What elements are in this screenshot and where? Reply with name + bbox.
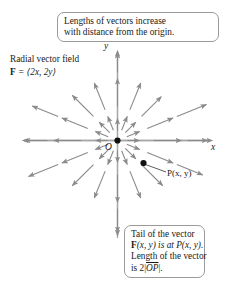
field-vector-arrow	[142, 165, 163, 186]
radial-field-label-line1: Radial vector field	[10, 53, 79, 66]
field-vector-arrow	[32, 106, 58, 116]
field-vector-arrow	[125, 148, 136, 159]
origin-dot	[114, 137, 120, 143]
field-vector-arrow	[130, 83, 141, 110]
field-vector-arrow	[147, 152, 173, 162]
field-vector-arrow	[108, 116, 114, 130]
radial-field-label: Radial vector field F = ⟨2x, 2y⟩	[10, 53, 79, 78]
length-suffix: .	[160, 263, 162, 273]
origin-label: O	[105, 142, 112, 152]
y-axis-label: y	[104, 41, 108, 51]
field-vector-arrow	[142, 97, 162, 117]
callout-bottom-line2: F(x, y) is at P(x, y).	[131, 240, 199, 251]
field-vector-arrow	[147, 118, 173, 128]
field-vector-arrow	[62, 118, 88, 128]
field-vector-arrow	[127, 144, 140, 149]
field-vector-arrow	[94, 171, 105, 198]
callout-bottom-line4: is 2|OP|.	[131, 263, 199, 274]
callout-bottom-line2-rest: (x, y) is at P(x, y).	[137, 240, 204, 250]
x-axis-label: x	[211, 142, 215, 152]
field-vector-arrow	[125, 122, 136, 133]
field-vector-arrow	[99, 122, 110, 133]
length-prefix: is 2	[131, 263, 144, 273]
point-p-label: P(x, y)	[167, 168, 192, 178]
callout-bottom-line3: Length of the vector	[131, 251, 199, 262]
field-vector-arrow	[94, 83, 105, 110]
field-vector-arrow	[62, 152, 88, 162]
radial-field-label-line2: F = ⟨2x, 2y⟩	[10, 66, 79, 79]
field-vector-arrow	[95, 132, 108, 137]
callout-top-line2: with distance from the origin.	[64, 27, 213, 38]
radial-vector-field-figure: Lengths of vectors increase with distanc…	[0, 0, 229, 283]
callout-bottom-line1: Tail of the vector	[131, 229, 199, 240]
field-vector-arrow	[122, 116, 128, 130]
field-vector-arrow	[108, 151, 114, 165]
vector-f-components: = ⟨2x, 2y⟩	[16, 67, 56, 77]
field-vector-arrow	[28, 164, 58, 176]
field-vector-arrow	[72, 95, 93, 116]
callout-lengths-increase: Lengths of vectors increase with distanc…	[57, 12, 219, 42]
point-p-dot	[140, 160, 146, 166]
field-vector-arrow	[130, 171, 141, 198]
segment-op-label: OP	[146, 263, 158, 273]
field-vector-arrow	[127, 132, 140, 137]
callout-tail-and-length: Tail of the vector F(x, y) is at P(x, y)…	[124, 225, 205, 278]
field-vector-arrow	[72, 165, 93, 186]
field-vector-arrow	[122, 151, 128, 165]
callout-top-line1: Lengths of vectors increase	[64, 16, 213, 27]
field-vector-arrow	[177, 105, 207, 117]
